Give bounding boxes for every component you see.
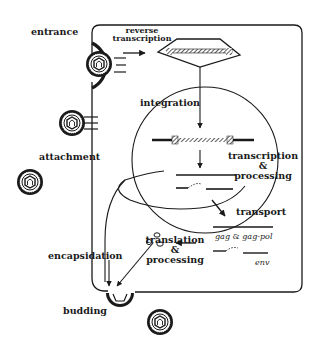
label-processing2-line: processing (145, 255, 205, 265)
virion-budding-icon (106, 293, 134, 307)
label-entrance: entrance (31, 27, 78, 37)
preintegration-complex-icon (158, 39, 240, 67)
label-attachment: attachment (39, 152, 100, 162)
label-encapsidation: encapsidation (48, 251, 123, 261)
label-integration: integration (140, 98, 200, 108)
label-transport: transport (236, 207, 286, 217)
label-gag: gag (215, 232, 230, 241)
label-gag-pol: gag-pol (242, 232, 272, 241)
virion-attaching-icon (59, 110, 85, 136)
label-reverse-line2: transcription (111, 34, 173, 42)
label-gag-amp: & (233, 232, 240, 241)
label-transcription-processing: transcription & processing (222, 151, 304, 181)
label-budding: budding (63, 306, 107, 316)
retrovirus-life-cycle-diagram: entrance reverse transcription integrati… (0, 0, 316, 345)
label-transcripts-gag: gag & gag-pol (215, 233, 272, 241)
virion-entering-icon (86, 51, 112, 77)
label-reverse-transcription: reverse transcription (111, 26, 173, 42)
provirus-icon (152, 136, 254, 144)
label-translation-processing: translation & processing (145, 235, 205, 265)
label-env: env (255, 259, 269, 267)
virion-free-icon (17, 169, 43, 195)
virion-released-icon (147, 309, 173, 335)
label-processing-line: processing (222, 171, 304, 181)
